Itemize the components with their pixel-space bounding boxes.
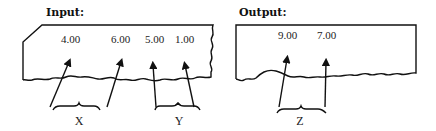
- arrow-y-1: [153, 65, 156, 107]
- arrow-y-2: [185, 65, 194, 107]
- input-value-1: 4.00: [61, 33, 81, 45]
- output-title: Output:: [239, 6, 287, 19]
- card-diagram: Input: 4.00 6.00 5.00 1.00 X Y Output: 9…: [0, 0, 436, 131]
- input-title: Input:: [46, 6, 84, 19]
- input-value-4: 1.00: [175, 33, 195, 45]
- arrow-z-2: [325, 62, 326, 107]
- group-label-z: Z: [296, 114, 303, 128]
- input-value-3: 5.00: [145, 33, 165, 45]
- output-value-2: 7.00: [317, 29, 337, 41]
- input-value-2: 6.00: [111, 33, 131, 45]
- arrow-x-2: [107, 62, 121, 107]
- arrow-x-1: [50, 62, 69, 107]
- brace-x: [53, 103, 100, 110]
- group-label-x: X: [75, 114, 84, 128]
- group-label-y: Y: [175, 114, 184, 128]
- arrow-z-1: [279, 59, 287, 107]
- diagram-canvas: Input: 4.00 6.00 5.00 1.00 X Y Output: 9…: [0, 0, 436, 131]
- brace-z: [277, 106, 326, 113]
- output-value-1: 9.00: [278, 29, 298, 41]
